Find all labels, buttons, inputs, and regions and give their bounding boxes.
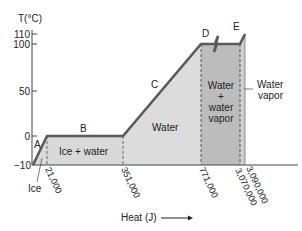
y-tick-label-50: 50 — [19, 86, 31, 97]
region-label-mix-line4: vapor — [208, 113, 234, 124]
heating-curve-chart: T(°C) Heat (J) 110 100 50 0 −10 21,000 3… — [0, 0, 302, 231]
region-label-mix-line1: Water — [208, 80, 235, 91]
region-label-mix-line2: + — [218, 91, 224, 102]
region-vapor-fill — [240, 34, 245, 165]
region-label-mix-line3: water — [208, 102, 234, 113]
arrow-right-icon — [188, 216, 193, 221]
y-axis-label: T(°C) — [18, 13, 42, 24]
y-tick-label-100: 100 — [13, 39, 30, 50]
segment-label-d: D — [202, 28, 209, 39]
region-label-vapor-line1: Water — [257, 79, 284, 90]
x-axis-label: Heat (J) — [121, 212, 157, 223]
segment-label-a: A — [34, 139, 41, 150]
x-tick-label-21000: 21,000 — [43, 166, 64, 195]
y-tick-label-minus10: −10 — [14, 160, 31, 171]
x-tick-label-771000: 771,000 — [197, 166, 220, 200]
region-label-water: Water — [152, 122, 179, 133]
segment-label-e: E — [233, 21, 240, 32]
region-label-vapor-line2: vapor — [258, 90, 284, 101]
segment-label-c: C — [151, 79, 158, 90]
x-tick-label-351000: 351,000 — [119, 166, 142, 200]
region-label-ice-water: Ice + water — [59, 146, 109, 157]
region-label-ice: Ice — [28, 183, 42, 194]
y-tick-label-0: 0 — [24, 131, 30, 142]
segment-label-b: B — [80, 123, 87, 134]
region-water-fill — [123, 44, 201, 165]
